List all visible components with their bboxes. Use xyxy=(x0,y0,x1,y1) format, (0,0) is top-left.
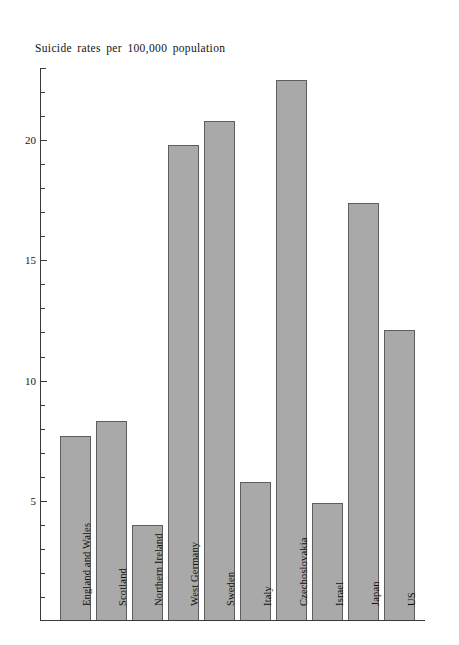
bar-series: England and WalesScotlandNorthern Irelan… xyxy=(57,68,418,621)
bar-category-slot: Czechoslovakia xyxy=(274,68,310,621)
y-axis-minor-tick xyxy=(40,525,45,526)
y-axis-minor-tick xyxy=(40,68,45,69)
bar-category-label: England and Wales xyxy=(81,523,92,606)
y-axis-minor-tick xyxy=(40,164,45,165)
bar-category-label: Sweden xyxy=(225,572,236,606)
bar-category-slot: Italy xyxy=(237,68,273,621)
y-axis-minor-tick xyxy=(40,212,45,213)
bar-category-slot: Japan xyxy=(346,68,382,621)
chart-title: Suicide rates per 100,000 population xyxy=(35,42,225,54)
bar-category-slot: Northern Ireland xyxy=(129,68,165,621)
y-axis-minor-tick xyxy=(40,477,45,478)
bar-category-slot: Scotland xyxy=(93,68,129,621)
y-axis-minor-tick xyxy=(40,308,45,309)
y-axis-minor-tick xyxy=(40,332,45,333)
y-axis-tick-label: 10 xyxy=(25,375,36,386)
bar[interactable] xyxy=(348,203,379,621)
bar-category-label: Northern Ireland xyxy=(153,533,164,606)
y-axis-minor-tick xyxy=(40,573,45,574)
y-axis-minor-tick xyxy=(40,116,45,117)
y-axis-tick-label: 20 xyxy=(25,135,36,146)
bar-category-label: Czechoslovakia xyxy=(297,537,308,606)
y-axis-minor-tick xyxy=(40,405,45,406)
y-axis-minor-tick xyxy=(40,188,45,189)
bar-category-slot: US xyxy=(382,68,418,621)
bar-category-label: Israel xyxy=(333,582,344,606)
bar-category-label: West Germany xyxy=(189,542,200,606)
bar-category-label: Japan xyxy=(369,581,380,606)
y-axis-major-tick xyxy=(40,140,47,141)
y-axis-minor-tick xyxy=(40,357,45,358)
bar-category-slot: Sweden xyxy=(201,68,237,621)
y-axis-tick-label: 15 xyxy=(25,255,36,266)
y-axis-minor-tick xyxy=(40,429,45,430)
y-axis-minor-tick xyxy=(40,284,45,285)
y-axis-line xyxy=(40,68,41,621)
x-axis-line xyxy=(40,620,425,621)
bar-category-label: Scotland xyxy=(117,568,128,606)
bar-category-label: US xyxy=(405,592,416,606)
y-axis-minor-tick xyxy=(40,92,45,93)
y-axis-minor-tick xyxy=(40,453,45,454)
y-axis-tick-label: 5 xyxy=(31,495,37,506)
y-axis-major-tick xyxy=(40,501,47,502)
bar-category-slot: Israel xyxy=(310,68,346,621)
y-axis-major-tick xyxy=(40,381,47,382)
bar[interactable] xyxy=(204,121,235,621)
bar[interactable] xyxy=(384,330,415,621)
bar-category-slot: West Germany xyxy=(165,68,201,621)
y-axis-major-tick xyxy=(40,260,47,261)
y-axis-minor-tick xyxy=(40,549,45,550)
y-axis-minor-tick xyxy=(40,597,45,598)
bar-category-label: Italy xyxy=(261,586,272,606)
plot-area: 5101520 England and WalesScotlandNorther… xyxy=(40,68,425,621)
chart-figure: Suicide rates per 100,000 population 510… xyxy=(0,0,459,645)
y-axis-minor-tick xyxy=(40,236,45,237)
bar-category-slot: England and Wales xyxy=(57,68,93,621)
